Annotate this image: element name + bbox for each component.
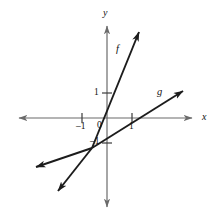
tick-label-y-positive-one: 1 bbox=[94, 88, 99, 98]
tick-label-y-negative-one: –1 bbox=[90, 137, 100, 147]
curve-label-g: g bbox=[157, 87, 162, 98]
function-line-f bbox=[58, 32, 139, 191]
coordinate-plane-svg bbox=[0, 0, 217, 222]
graph-figure: y x f g 1 0 –1 1 –1 bbox=[0, 0, 217, 222]
y-axis-label: y bbox=[103, 8, 107, 18]
origin-label: 0 bbox=[97, 121, 102, 131]
tick-label-x-negative-one: –1 bbox=[76, 122, 86, 132]
line-g-right-ray bbox=[92, 91, 183, 148]
x-axis-label: x bbox=[202, 112, 206, 122]
curve-label-f: f bbox=[116, 44, 119, 55]
tick-label-x-positive-one: 1 bbox=[129, 122, 134, 132]
